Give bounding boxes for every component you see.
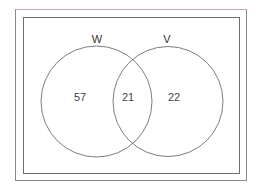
set-w-circle [41, 46, 152, 157]
intersection-value: 21 [122, 91, 134, 103]
set-w-label: W [92, 33, 103, 45]
w-only-value: 57 [74, 91, 86, 103]
v-only-value: 22 [168, 91, 180, 103]
set-v-label: V [163, 33, 171, 45]
venn-diagram: W V 57 21 22 [0, 0, 261, 192]
